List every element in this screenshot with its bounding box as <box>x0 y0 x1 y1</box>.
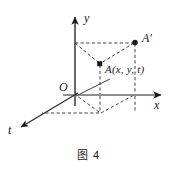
solid-interior-edges <box>76 79 110 96</box>
point-a-prime-marker <box>132 40 137 45</box>
point-a-prime-label: A′ <box>142 32 152 44</box>
t-axis-line <box>21 93 78 127</box>
dashed-diagonal-left-to-a <box>75 43 99 63</box>
point-a-marker <box>97 61 102 66</box>
point-a-label: A(x, y, t) <box>105 64 144 75</box>
dashed-construction-lines <box>42 43 135 113</box>
t-axis-label: t <box>8 124 11 136</box>
dashed-base-front-right <box>101 95 134 113</box>
figure-container: y x t O A′ A(x, y, t) 图 4 <box>0 0 177 169</box>
solid-edge-origin-to-base <box>76 79 110 96</box>
coordinate-diagram <box>0 0 177 169</box>
x-axis-label: x <box>154 99 159 111</box>
figure-caption: 图 4 <box>0 146 177 162</box>
dashed-base-to-origin <box>77 96 99 112</box>
origin-label: O <box>59 81 68 93</box>
dashed-diagonal-aprime-to-a <box>101 43 134 63</box>
y-axis-label: y <box>84 12 89 24</box>
